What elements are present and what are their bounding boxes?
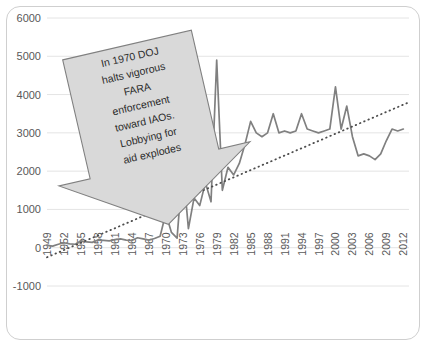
y-tick-label: 3000 xyxy=(17,127,41,139)
x-tick-label: 1988 xyxy=(262,232,274,256)
chart-canvas: -10000100020003000400050006000 194919521… xyxy=(0,0,428,348)
x-tick-label: 1949 xyxy=(41,232,53,256)
x-tick-label: 2006 xyxy=(363,232,375,256)
x-tick-label: 1994 xyxy=(296,232,308,256)
y-tick-label: 6000 xyxy=(17,12,41,24)
x-tick-label: 2000 xyxy=(329,232,341,256)
x-tick-label: 1982 xyxy=(228,232,240,256)
x-tick-label: 1970 xyxy=(160,232,172,256)
y-tick-label: 5000 xyxy=(17,50,41,62)
x-tick-label: 1985 xyxy=(245,232,257,256)
x-tick-label: 1991 xyxy=(279,232,291,256)
y-tick-label: 2000 xyxy=(17,165,41,177)
x-tick-label: 1997 xyxy=(313,232,325,256)
x-tick-label: 2009 xyxy=(380,232,392,256)
x-axis-tick-labels: 1949195219551958196119641967197019731976… xyxy=(41,232,409,256)
y-tick-label: -1000 xyxy=(13,280,41,292)
y-tick-label: 4000 xyxy=(17,89,41,101)
chart-container: -10000100020003000400050006000 194919521… xyxy=(0,0,428,348)
x-tick-label: 1973 xyxy=(177,232,189,256)
x-tick-label: 1961 xyxy=(109,232,121,256)
x-tick-label: 1967 xyxy=(143,232,155,256)
x-tick-label: 2003 xyxy=(346,232,358,256)
x-tick-label: 1976 xyxy=(194,232,206,256)
y-axis-tick-labels: -10000100020003000400050006000 xyxy=(13,12,41,292)
y-tick-label: 1000 xyxy=(17,203,41,215)
x-tick-label: 1964 xyxy=(126,232,138,256)
x-tick-label: 1979 xyxy=(211,232,223,256)
x-tick-label: 2012 xyxy=(397,232,409,256)
